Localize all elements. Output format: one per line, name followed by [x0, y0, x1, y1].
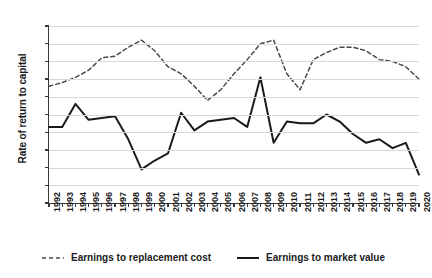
x-tick-mark — [75, 203, 76, 207]
x-tick-label: 2011 — [304, 192, 313, 212]
y-tick-mark — [45, 78, 49, 79]
x-tick-mark — [194, 203, 195, 207]
x-tick-label: 2012 — [317, 192, 326, 212]
x-tick-label: 1992 — [53, 192, 62, 212]
x-tick-mark — [379, 203, 380, 207]
x-tick-label: 2005 — [224, 192, 233, 212]
series-line-2 — [49, 77, 419, 174]
x-tick-label: 2006 — [238, 192, 247, 212]
x-tick-mark — [62, 203, 63, 207]
x-tick-label: 2018 — [396, 192, 405, 212]
chart-legend: Earnings to replacement cost Earnings to… — [0, 252, 427, 263]
x-tick-label: 1999 — [145, 192, 154, 212]
gridline — [49, 115, 419, 116]
x-tick-mark — [339, 203, 340, 207]
y-tick-mark — [45, 43, 49, 44]
gridline — [49, 44, 419, 45]
gridline — [49, 97, 419, 98]
x-tick-label: 2015 — [357, 192, 366, 212]
x-tick-mark — [154, 203, 155, 207]
solid-line-swatch — [237, 254, 259, 262]
x-tick-label: 1995 — [92, 192, 101, 212]
x-tick-mark — [273, 203, 274, 207]
x-tick-mark — [313, 203, 314, 207]
x-tick-label: 2013 — [330, 192, 339, 212]
y-tick-mark — [45, 185, 49, 186]
x-tick-mark — [207, 203, 208, 207]
x-tick-mark — [141, 203, 142, 207]
x-tick-label: 2004 — [211, 192, 220, 212]
x-tick-label: 2020 — [423, 192, 432, 212]
gridline — [49, 61, 419, 62]
x-tick-mark — [299, 203, 300, 207]
x-tick-mark — [220, 203, 221, 207]
series-line-1 — [49, 40, 419, 100]
x-tick-mark — [101, 203, 102, 207]
legend-item-market-value[interactable]: Earnings to market value — [237, 252, 385, 263]
x-tick-label: 2000 — [158, 192, 167, 212]
legend-item-replacement-cost[interactable]: Earnings to replacement cost — [42, 252, 211, 263]
x-tick-label: 1994 — [79, 192, 88, 212]
gridline — [49, 185, 419, 186]
legend-label-market-value: Earnings to market value — [266, 252, 385, 263]
x-tick-label: 1996 — [105, 192, 114, 212]
x-tick-mark — [48, 203, 49, 207]
y-tick-mark — [45, 149, 49, 150]
x-tick-mark — [181, 203, 182, 207]
y-tick-mark — [45, 114, 49, 115]
x-tick-label: 1997 — [119, 192, 128, 212]
x-tick-mark — [247, 203, 248, 207]
x-tick-label: 2016 — [370, 192, 379, 212]
x-tick-label: 1993 — [66, 192, 75, 212]
gridline — [49, 26, 419, 27]
x-tick-label: 2010 — [290, 192, 299, 212]
x-tick-mark — [366, 203, 367, 207]
y-tick-mark — [45, 167, 49, 168]
x-tick-label: 2014 — [343, 192, 352, 212]
plot-area: 12.011.010.09.08.07.06.05.04.03.02.01992… — [48, 26, 419, 204]
x-tick-mark — [88, 203, 89, 207]
gridline — [49, 150, 419, 151]
y-tick-mark — [45, 61, 49, 62]
x-tick-mark — [352, 203, 353, 207]
x-tick-mark — [392, 203, 393, 207]
x-tick-label: 2001 — [172, 192, 181, 212]
x-tick-mark — [233, 203, 234, 207]
x-tick-mark — [286, 203, 287, 207]
x-tick-label: 2019 — [409, 192, 418, 212]
x-tick-mark — [418, 203, 419, 207]
x-tick-label: 2003 — [198, 192, 207, 212]
x-tick-mark — [128, 203, 129, 207]
x-tick-mark — [260, 203, 261, 207]
x-tick-mark — [326, 203, 327, 207]
y-tick-mark — [45, 25, 49, 26]
x-tick-label: 2017 — [383, 192, 392, 212]
gridline — [49, 168, 419, 169]
x-tick-label: 2002 — [185, 192, 194, 212]
x-tick-label: 1998 — [132, 192, 141, 212]
x-tick-mark — [167, 203, 168, 207]
y-axis-title: Rate of return to capital — [17, 24, 28, 194]
gridline — [49, 79, 419, 80]
gridline — [49, 132, 419, 133]
x-tick-mark — [405, 203, 406, 207]
x-tick-label: 2008 — [264, 192, 273, 212]
dashed-line-swatch — [42, 254, 64, 262]
x-tick-mark — [114, 203, 115, 207]
x-tick-label: 2007 — [251, 192, 260, 212]
y-tick-mark — [45, 132, 49, 133]
x-tick-label: 2009 — [277, 192, 286, 212]
legend-label-replacement-cost: Earnings to replacement cost — [71, 252, 211, 263]
y-tick-mark — [45, 96, 49, 97]
